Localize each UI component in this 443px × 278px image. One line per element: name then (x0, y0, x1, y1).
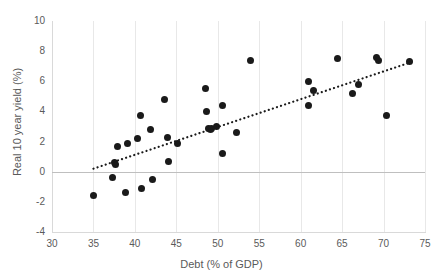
data-point (149, 176, 156, 183)
x-tick-40: 40 (120, 239, 150, 249)
scatter-chart: -4-20246810 30354045505560657075 Debt (%… (0, 0, 443, 278)
data-point (174, 140, 181, 147)
y-tick--4: -4 (15, 227, 45, 237)
x-tick-65: 65 (327, 239, 357, 249)
data-point (165, 158, 172, 165)
x-tick-30: 30 (37, 239, 67, 249)
x-tick-45: 45 (161, 239, 191, 249)
data-point (233, 129, 240, 136)
data-point (203, 108, 210, 115)
x-axis-title: Debt (% of GDP) (0, 258, 443, 270)
x-tick-35: 35 (78, 239, 108, 249)
zero-line (52, 172, 425, 173)
x-tick-70: 70 (369, 239, 399, 249)
data-point (202, 85, 209, 92)
data-point (375, 57, 382, 64)
data-point (124, 140, 131, 147)
data-point (219, 102, 226, 109)
gridline-x-35 (93, 21, 94, 232)
data-point (219, 150, 226, 157)
gridline-x-40 (135, 21, 136, 232)
data-point (137, 112, 144, 119)
gridline-x-45 (176, 21, 177, 232)
data-point (122, 189, 129, 196)
data-point (112, 161, 119, 168)
gridline-x-75 (425, 21, 426, 232)
data-point (334, 55, 341, 62)
gridline-x-65 (342, 21, 343, 232)
data-point (213, 123, 220, 130)
data-point (355, 81, 362, 88)
data-point (383, 112, 390, 119)
data-point (109, 174, 116, 181)
x-tick-75: 75 (410, 239, 440, 249)
data-point (305, 78, 312, 85)
gridline-x-55 (259, 21, 260, 232)
gridline-x-70 (384, 21, 385, 232)
data-point (305, 102, 312, 109)
y-axis-title: Real 10 year yield (%) (11, 17, 23, 227)
data-point (406, 58, 413, 65)
data-point (349, 90, 356, 97)
data-point (147, 126, 154, 133)
data-point (310, 87, 317, 94)
data-point (164, 134, 171, 141)
x-tick-50: 50 (203, 239, 233, 249)
data-point (247, 57, 254, 64)
x-axis-line (52, 232, 426, 233)
x-tick-55: 55 (244, 239, 274, 249)
data-point (161, 96, 168, 103)
x-tick-60: 60 (286, 239, 316, 249)
data-point (114, 143, 121, 150)
data-point (134, 135, 141, 142)
data-point (138, 185, 145, 192)
y-axis-line (52, 21, 53, 233)
data-point (90, 192, 97, 199)
gridline-x-60 (301, 21, 302, 232)
trendline (52, 21, 425, 232)
